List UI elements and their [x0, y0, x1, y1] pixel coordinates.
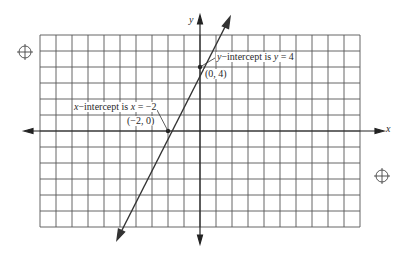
- x-axis-left-arrow-icon: [24, 129, 33, 134]
- x-axis-label: x: [386, 124, 390, 134]
- line-down-arrow-icon: [117, 229, 125, 240]
- x-int-text: −intercept is: [78, 101, 130, 112]
- y-intercept-leader: [200, 58, 215, 67]
- registration-mark-left-icon: [17, 44, 33, 60]
- x-intercept-leader: [157, 110, 168, 131]
- y-axis-up-arrow-icon: [198, 15, 203, 24]
- y-intercept-annotation: y−intercept is y = 4: [216, 52, 295, 62]
- registration-mark-right-icon: [374, 168, 390, 184]
- x-axis-right-arrow-icon: [375, 129, 384, 134]
- axes: [24, 15, 384, 244]
- x-int-value: = −2: [135, 101, 156, 112]
- x-intercept-annotation: x−intercept is x = −2: [73, 102, 157, 112]
- x-intercept-point-label: (−2, 0): [126, 116, 155, 126]
- y-axis-down-arrow-icon: [198, 235, 203, 244]
- y-int-text: −intercept is: [221, 51, 273, 62]
- y-int-value: = 4: [278, 51, 294, 62]
- line-up-arrow-icon: [223, 17, 231, 29]
- coordinate-plane: [0, 0, 402, 253]
- y-intercept-point-label: (0, 4): [204, 69, 228, 79]
- y-axis-label: y: [189, 15, 193, 25]
- graph-line-y-equals-2x-plus-4: [117, 17, 230, 240]
